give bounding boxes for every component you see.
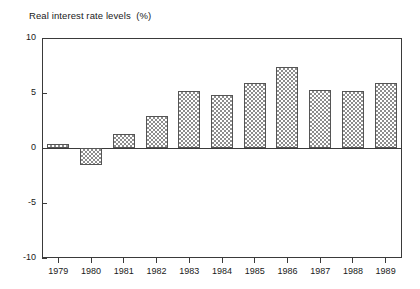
y-axis-tick	[42, 258, 47, 259]
bar	[211, 95, 233, 148]
y-axis-tick-label: 5	[8, 87, 36, 97]
y-axis-tick-label: 10	[8, 32, 36, 42]
x-axis-tick	[123, 258, 124, 263]
bar	[244, 83, 266, 148]
x-axis-tick	[222, 258, 223, 263]
bar	[80, 148, 102, 165]
x-axis-tick	[58, 258, 59, 263]
y-axis-tick	[42, 93, 47, 94]
x-axis-tick	[189, 258, 190, 263]
bar	[276, 67, 298, 148]
x-axis-tick	[254, 258, 255, 263]
y-axis-tick	[42, 38, 47, 39]
y-axis-tick-label: 0	[8, 142, 36, 152]
x-axis-tick	[91, 258, 92, 263]
y-axis-tick	[42, 148, 47, 149]
bar	[309, 90, 331, 148]
x-axis-tick	[352, 258, 353, 263]
bar	[47, 144, 69, 148]
bar	[178, 91, 200, 148]
bar	[342, 91, 364, 148]
x-axis-tick	[320, 258, 321, 263]
x-axis-tick	[287, 258, 288, 263]
y-axis-tick-label: -10	[8, 252, 36, 262]
x-axis-tick	[385, 258, 386, 263]
bar	[146, 116, 168, 148]
bar	[375, 83, 397, 148]
y-axis-tick-label: -5	[8, 197, 36, 207]
x-axis-tick-label: 1989	[366, 266, 406, 276]
x-axis-tick	[156, 258, 157, 263]
bar	[113, 134, 135, 148]
chart-title: Real interest rate levels (%)	[29, 10, 151, 21]
y-axis-tick	[42, 203, 47, 204]
chart-figure: Real interest rate levels (%) 1050-5-10 …	[0, 0, 420, 289]
